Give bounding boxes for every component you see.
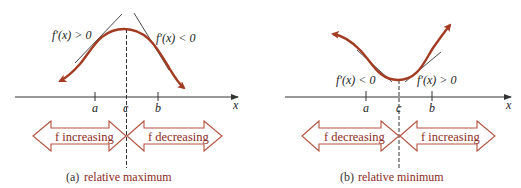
caption-tag: (a) — [66, 170, 79, 184]
caption-text: relative minimum — [358, 170, 444, 184]
tick-label-b: b — [155, 101, 161, 115]
arrow-label-right: f increasing — [421, 130, 480, 144]
tick-label-b: b — [429, 101, 435, 115]
axis-label-x: x — [232, 98, 239, 112]
derivative-label-left: f′(x) < 0 — [336, 73, 375, 87]
curve-minimum-right — [398, 25, 450, 80]
arrow-label-left: f increasing — [55, 130, 114, 144]
tick-label-a: a — [92, 101, 98, 115]
derivative-label-right: f′(x) < 0 — [156, 31, 195, 45]
tick-label-c: c — [396, 101, 402, 115]
derivative-label-right: f′(x) > 0 — [417, 73, 456, 87]
arrow-label-left: f decreasing — [324, 130, 385, 144]
panel-relative-minimum: f′(x) < 0 f′(x) > 0 a c b x f decreasing… — [285, 25, 512, 184]
derivative-label-left: f′(x) > 0 — [52, 28, 91, 42]
caption-tag: (b) — [340, 170, 354, 184]
arrow-label-right: f decreasing — [148, 130, 209, 144]
tick-label-a: a — [363, 101, 369, 115]
derivative-test-diagram: f′(x) > 0 f′(x) < 0 a c b x f increasing… — [0, 0, 521, 188]
panel-relative-maximum: f′(x) > 0 f′(x) < 0 a c b x f increasing… — [15, 13, 239, 184]
axis-label-x: x — [505, 98, 512, 112]
caption-text: relative maximum — [84, 170, 172, 184]
tick-label-c: c — [123, 101, 129, 115]
